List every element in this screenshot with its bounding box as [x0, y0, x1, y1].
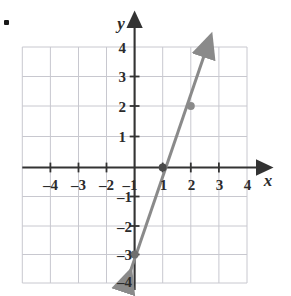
x-tick-label-neg3: –3: [70, 177, 86, 193]
x-tick-label-3: 3: [216, 177, 224, 193]
x-tick-label-1: 1: [160, 177, 168, 193]
graph-figure: –4 –3 –2 –1 1 2 3 4 1 2 3 4 –1 –2 –3 –4 …: [0, 0, 291, 296]
y-axis-label: y: [115, 14, 125, 33]
y-tick-label-neg4: –4: [116, 274, 133, 290]
y-tick-label-3: 3: [119, 69, 127, 85]
y-tick-label-neg2: –2: [116, 219, 132, 235]
y-tick-label-1: 1: [119, 129, 127, 145]
x-tick-label-neg4: –4: [42, 177, 59, 193]
x-tick-label-4: 4: [244, 177, 252, 193]
y-tick-label-4: 4: [119, 40, 127, 56]
x-tick-label-neg2: –2: [98, 177, 114, 193]
y-tick-label-2: 2: [119, 99, 127, 115]
point-x-intercept: [159, 164, 167, 172]
y-tick-label-neg3: –3: [116, 247, 132, 263]
x-tick-label-2: 2: [188, 177, 196, 193]
y-tick-label-neg1: –1: [116, 189, 132, 205]
coordinate-plane-svg: –4 –3 –2 –1 1 2 3 4 1 2 3 4 –1 –2 –3 –4 …: [0, 0, 291, 296]
point-upper: [187, 102, 195, 110]
x-axis-label: x: [263, 171, 273, 190]
